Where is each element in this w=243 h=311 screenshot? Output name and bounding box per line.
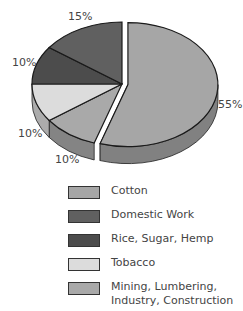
legend-label: Tobacco bbox=[111, 256, 243, 270]
label-domestic: 15% bbox=[68, 10, 92, 23]
swatch-cotton bbox=[68, 186, 100, 199]
label-cotton: 55% bbox=[218, 98, 242, 111]
pie-chart bbox=[0, 0, 243, 180]
label-rice: 10% bbox=[12, 56, 36, 69]
legend-label: Cotton bbox=[111, 184, 243, 198]
legend-label: Mining, Lumbering, Industry, Constructio… bbox=[111, 280, 243, 308]
legend-label: Domestic Work bbox=[111, 208, 243, 222]
label-tobacco: 10% bbox=[18, 127, 42, 140]
label-mining: 10% bbox=[55, 153, 79, 166]
swatch-mining bbox=[68, 282, 100, 295]
legend-label: Rice, Sugar, Hemp bbox=[111, 232, 243, 246]
swatch-domestic bbox=[68, 210, 100, 223]
swatch-tobacco bbox=[68, 258, 100, 271]
swatch-rice bbox=[68, 234, 100, 247]
